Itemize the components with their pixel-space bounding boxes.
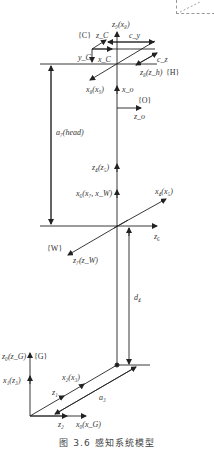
label-z6: z₆ [154, 232, 160, 241]
label-a3: a₃ [99, 393, 106, 402]
label-x0-xG: x₀(x_G) [76, 420, 101, 429]
label-x6-x7-xW: x₆(x₇, x_W) [76, 189, 112, 198]
label-z0-zG: z₀(z_G) [2, 352, 26, 361]
z7-axis [68, 220, 128, 255]
frame-C: {C} [78, 31, 91, 40]
label-yC: y_C [78, 53, 91, 62]
label-zC: z_C [96, 31, 108, 40]
frame-G: {G} [34, 352, 47, 361]
kinematic-diagram [0, 0, 214, 449]
label-x2-x3: x₂(x₃) [62, 373, 80, 382]
figure-caption: 图 3.6 感知系统模型 [0, 436, 214, 449]
label-x1-z3: x₁(z₃) [3, 376, 21, 385]
label-xC: x_C [98, 55, 111, 64]
frame-W: {W} [47, 244, 62, 253]
label-z7-zW: z₇(z_W) [73, 256, 98, 265]
label-xo: x_o [122, 85, 134, 94]
frame-H: {H} [166, 68, 179, 77]
label-x4-x5: x₄(x₅) [155, 187, 173, 196]
label-zo: z_o [134, 112, 145, 121]
label-cy: c_y [129, 31, 140, 40]
label-z8-zh: z₈(z_h) [140, 68, 162, 77]
label-z4-z5: z₄(z₅) [92, 163, 109, 172]
label-z1: z₁ [52, 388, 58, 397]
frame-O: {O} [138, 96, 151, 105]
label-d4: d₄ [134, 293, 141, 302]
label-z9-x8: z₉(x₈) [112, 20, 130, 29]
label-x8-x9: x₈(x₉) [86, 85, 104, 94]
label-z2: z₂ [58, 420, 64, 429]
label-a7-head: a₇(head) [56, 128, 84, 137]
label-cz: c_z [157, 55, 168, 64]
